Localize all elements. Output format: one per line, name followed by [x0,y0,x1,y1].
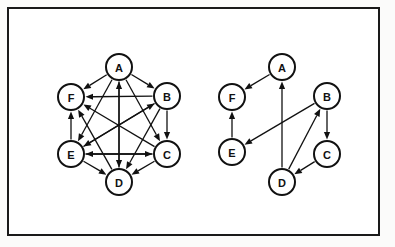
node-right-graph-C[interactable]: C [314,141,340,167]
edge-left-graph-A-to-B [131,75,148,85]
figure-root: ABCDEFABCDEF [0,0,395,247]
edge-left-graph-E-to-D [84,161,100,171]
edge-right-graph-C-to-D [301,162,315,171]
node-left-graph-F[interactable]: F [58,84,84,110]
nodes-layer: ABCDEFABCDEF [58,54,340,195]
edge-right-graph-A-to-F [251,74,270,85]
node-label-D: D [115,177,123,189]
arrowhead-left-graph-E-to-D [98,168,106,174]
node-right-graph-E[interactable]: E [219,139,245,165]
arrowhead-left-graph-E-to-B [147,104,155,111]
arrowhead-left-graph-A-to-F [83,83,91,90]
node-label-F: F [68,92,75,104]
node-label-F: F [229,92,236,104]
node-left-graph-B[interactable]: B [154,83,180,109]
node-label-B: B [163,91,171,103]
arrowhead-left-graph-E-to-F [68,112,74,120]
edge-right-graph-D-to-B [289,115,317,169]
node-label-D: D [278,177,286,189]
edge-left-graph-B-to-F [93,96,153,97]
node-right-graph-D[interactable]: D [269,169,295,195]
node-left-graph-C[interactable]: C [154,141,180,167]
arrowhead-left-graph-D-to-A [116,82,122,90]
arrowhead-right-graph-B-to-C [324,132,330,140]
node-left-graph-E[interactable]: E [58,141,84,167]
arrowhead-right-graph-C-to-D [294,168,302,175]
arrowhead-left-graph-B-to-C [164,132,170,140]
edge-right-graph-B-to-E [251,103,315,140]
node-label-A: A [278,62,286,74]
node-right-graph-F[interactable]: F [219,84,245,110]
node-label-B: B [323,91,331,103]
arrowhead-right-graph-B-to-E [244,138,252,144]
arrowhead-left-graph-E-to-C [145,151,153,157]
graph-canvas: ABCDEFABCDEF [0,0,395,247]
node-right-graph-A[interactable]: A [269,54,295,80]
arrowhead-left-graph-A-to-B [147,82,155,89]
arrowhead-left-graph-C-to-D [132,168,140,174]
arrowhead-left-graph-C-to-F [83,104,91,111]
node-left-graph-D[interactable]: D [106,169,132,195]
arrowhead-left-graph-B-to-F [86,94,94,100]
arrowhead-right-graph-D-to-A [279,82,285,90]
node-label-C: C [323,149,331,161]
edge-left-graph-A-to-F [90,75,107,86]
arrowhead-right-graph-E-to-F [229,112,235,120]
edges-layer [68,74,330,174]
node-label-E: E [67,149,74,161]
arrowhead-right-graph-A-to-F [244,83,252,90]
edge-left-graph-C-to-D [138,161,154,171]
node-label-E: E [228,147,235,159]
node-label-C: C [163,149,171,161]
node-left-graph-A[interactable]: A [106,54,132,80]
node-label-A: A [115,62,123,74]
node-right-graph-B[interactable]: B [314,83,340,109]
